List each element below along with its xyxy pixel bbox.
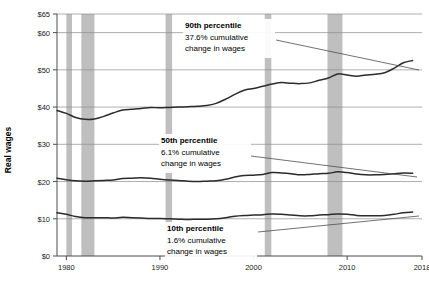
annotation-90th-line1: 37.6% cumulative: [185, 33, 249, 42]
y-tick-label-$20: $20: [37, 178, 50, 187]
recession-band-4: [327, 14, 342, 256]
chart-canvas: $0$10$20$30$40$50$60$65 1980199020002010…: [0, 0, 429, 288]
y-tick-label-$40: $40: [37, 103, 50, 112]
annotation-90th-title: 90th percentile: [185, 21, 242, 30]
annotation-10th-title: 10th percentile: [167, 224, 224, 233]
x-tick-label-2000: 2000: [245, 263, 262, 272]
y-tick-label-$65: $65: [37, 10, 50, 19]
y-tick-label-$10: $10: [37, 215, 50, 224]
annotation-50th-line1: 6.1% cumulative: [161, 148, 220, 157]
annotation-50th-title: 50th percentile: [161, 136, 218, 145]
annotation-10th-line2: change in wages: [167, 247, 227, 256]
y-tick-label-$30: $30: [37, 140, 50, 149]
y-axis-title: Real wages: [3, 127, 13, 174]
annotation-50th-line2: change in wages: [161, 159, 221, 168]
annotation-90th-line2: change in wages: [185, 44, 245, 53]
x-tick-label-2018: 2018: [414, 263, 429, 272]
annotation-90th-percentile: 90th percentile 37.6% cumulative change …: [183, 19, 275, 58]
x-tick-label-1990: 1990: [152, 263, 169, 272]
y-tick-label-$60: $60: [37, 29, 50, 38]
recession-band-1: [81, 14, 94, 256]
real-wages-chart: $0$10$20$30$40$50$60$65 1980199020002010…: [0, 0, 429, 288]
annotation-50th-percentile: 50th percentile 6.1% cumulative change i…: [159, 134, 251, 173]
x-tick-label-1980: 1980: [58, 263, 75, 272]
annotation-10th-percentile: 10th percentile 1.6% cumulative change i…: [165, 222, 257, 261]
y-tick-label-$50: $50: [37, 66, 50, 75]
recession-band-0: [66, 14, 72, 256]
x-tick-label-2010: 2010: [339, 263, 356, 272]
annotation-10th-line1: 1.6% cumulative: [167, 236, 226, 245]
y-tick-label-$0: $0: [42, 252, 50, 261]
